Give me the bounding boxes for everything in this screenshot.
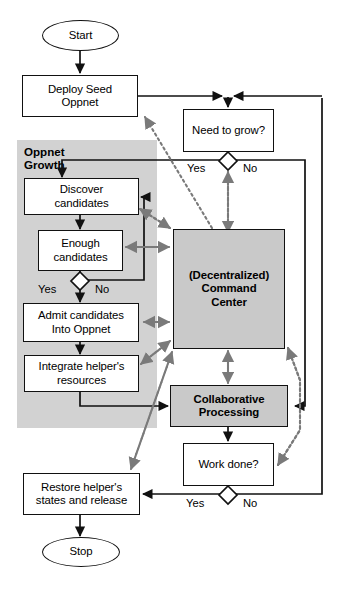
node-start[interactable]: Start <box>42 20 119 51</box>
node-collaborative-processing[interactable]: Collaborative Processing <box>170 385 288 427</box>
node-discover-candidates[interactable]: Discover candidates <box>24 178 139 215</box>
node-need-to-grow-label: Need to grow? <box>192 124 265 137</box>
node-discover-candidates-label: Discover candidates <box>54 183 108 210</box>
decision-diamond-need-to-grow <box>219 152 237 170</box>
node-need-to-grow[interactable]: Need to grow? <box>183 109 274 152</box>
node-restore-helper-states-label: Restore helper's states and release <box>36 481 127 508</box>
node-stop[interactable]: Stop <box>42 537 120 567</box>
node-collaborative-processing-label: Collaborative Processing <box>194 393 265 420</box>
decision-diamond-work-done <box>219 486 237 504</box>
node-deploy-seed-oppnet-label: Deploy Seed Oppnet <box>48 83 112 110</box>
node-admit-candidates[interactable]: Admit candidates Into Oppnet <box>23 303 139 342</box>
node-decentralized-command-center[interactable]: (Decentralized) Command Center <box>173 229 285 349</box>
flowchart-canvas: Oppnet Growth <box>0 0 340 596</box>
node-integrate-helper-resources-label: Integrate helper's resources <box>39 360 125 387</box>
node-work-done-label: Work done? <box>198 458 258 471</box>
node-integrate-helper-resources[interactable]: Integrate helper's resources <box>24 355 139 392</box>
branch-label-work-done-yes: Yes <box>186 497 204 509</box>
node-restore-helper-states[interactable]: Restore helper's states and release <box>23 473 140 515</box>
branch-label-need-to-grow-yes: Yes <box>187 162 205 174</box>
node-stop-label: Stop <box>69 545 92 558</box>
node-enough-candidates[interactable]: Enough candidates <box>38 230 123 271</box>
node-decentralized-command-center-label: (Decentralized) Command Center <box>189 269 269 309</box>
node-start-label: Start <box>69 29 93 42</box>
node-deploy-seed-oppnet[interactable]: Deploy Seed Oppnet <box>22 75 138 117</box>
node-work-done[interactable]: Work done? <box>183 443 274 486</box>
branch-label-enough-candidates-yes: Yes <box>38 283 56 295</box>
branch-label-enough-candidates-no: No <box>95 283 109 295</box>
branch-label-work-done-no: No <box>243 497 257 509</box>
decision-diamond-enough-candidates <box>71 272 89 290</box>
node-admit-candidates-label: Admit candidates Into Oppnet <box>38 309 124 336</box>
branch-label-need-to-grow-no: No <box>243 162 257 174</box>
node-enough-candidates-label: Enough candidates <box>53 237 107 264</box>
